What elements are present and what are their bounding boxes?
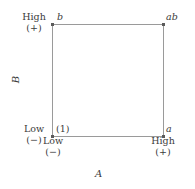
point-label-b: b [57, 12, 63, 23]
x-axis-low-sign: (−) [36, 147, 70, 158]
edge-top [52, 24, 164, 25]
corner-marker-top-left [51, 23, 54, 26]
point-label-1: (1) [56, 124, 69, 135]
point-label-ab: ab [166, 12, 178, 23]
y-axis-name: B [10, 73, 21, 87]
x-axis-name: A [95, 168, 102, 179]
factorial-design-plot: b ab (1) a High (+) Low (−) Low (−) High… [0, 0, 195, 189]
x-axis-high-word: High [146, 136, 180, 147]
edge-left [52, 24, 53, 136]
y-axis-low-word: Low [18, 124, 50, 135]
corner-marker-top-right [162, 23, 165, 26]
y-axis-high-word: High [18, 12, 50, 23]
y-axis-high-sign: (+) [18, 23, 50, 34]
x-axis-high-label: High (+) [146, 136, 180, 157]
x-axis-low-label: Low (−) [36, 136, 70, 157]
x-axis-high-sign: (+) [146, 147, 180, 158]
x-axis-low-word: Low [36, 136, 70, 147]
y-axis-high-label: High (+) [18, 12, 50, 33]
point-label-a: a [166, 124, 172, 135]
edge-right [163, 24, 164, 136]
